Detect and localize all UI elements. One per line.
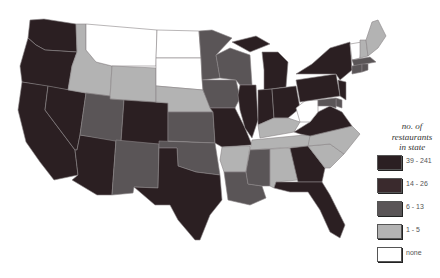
state-ny [296, 42, 352, 80]
legend-swatch [377, 201, 402, 216]
legend-label: 6 - 13 [406, 203, 424, 210]
state-ar [220, 146, 250, 172]
state-ri [362, 64, 368, 72]
state-wi [216, 48, 252, 85]
legend-item-none: none [377, 247, 440, 261]
legend-swatch [377, 178, 402, 193]
state-ct [352, 64, 362, 74]
legend-swatch [377, 155, 402, 170]
us-choropleth-map [0, 0, 440, 278]
state-fl [274, 182, 345, 238]
legend-label: 39 - 241 [406, 157, 432, 164]
state-me [366, 20, 386, 56]
state-mt [86, 24, 157, 66]
legend-item-39-241: 39 - 241 [377, 155, 440, 169]
state-ks [168, 112, 215, 143]
state-oh [272, 86, 300, 118]
legend-label: 1 - 5 [406, 226, 420, 233]
state-co [121, 100, 168, 145]
legend-title-line-1: no. of [382, 121, 440, 132]
legend-label: none [406, 249, 422, 256]
state-mi-up [232, 36, 270, 52]
state-ms [246, 149, 270, 186]
legend-label: 14 - 26 [406, 180, 428, 187]
state-pa [296, 74, 340, 102]
state-nd [156, 30, 201, 58]
state-ut [80, 93, 124, 142]
legend-title: no. of restaurants in state [382, 121, 440, 153]
state-de [336, 98, 342, 108]
legend-item-6-13: 6 - 13 [377, 201, 440, 215]
state-wy [110, 66, 156, 102]
state-nm [112, 140, 159, 195]
legend-swatch [377, 247, 402, 262]
state-sd [156, 58, 203, 90]
state-az [72, 135, 116, 195]
legend-title-line-3: in state [382, 142, 440, 153]
state-nj [338, 80, 346, 100]
state-md [318, 98, 336, 108]
state-mi [262, 52, 288, 90]
legend-title-line-2: restaurants [382, 132, 440, 143]
legend-swatch [377, 224, 402, 239]
legend-item-14-26: 14 - 26 [377, 178, 440, 192]
legend-item-1-5: 1 - 5 [377, 224, 440, 238]
